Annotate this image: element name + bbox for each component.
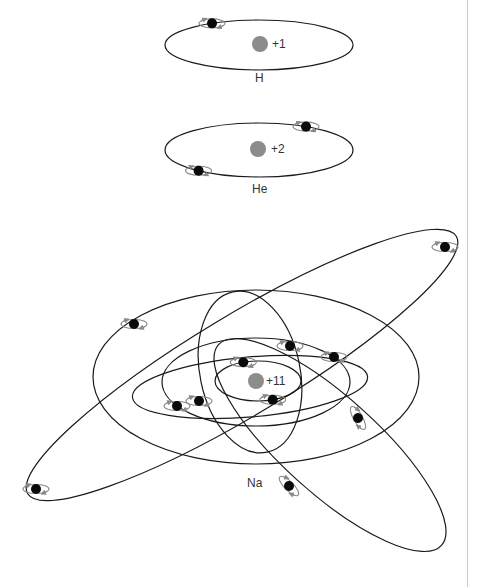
nucleus [252,36,268,52]
nucleus-charge: +2 [271,142,285,156]
electron-dot [329,352,339,362]
atom-sodium: +11 Na [2,193,482,581]
electron-dot [129,319,139,329]
electron [230,357,256,367]
orbit-long-diagonal-b [186,309,473,581]
electron [23,484,49,494]
electron-dot [440,242,450,252]
atom-diagrams: +1 H +2 He +11 Na [0,0,483,587]
atom-label: Na [247,476,263,490]
nucleus-charge: +1 [272,37,286,51]
electron-dot [194,396,204,406]
electron-dot [172,401,182,411]
electron-dot [31,484,41,494]
electron [164,401,190,411]
nucleus-charge: +11 [266,374,286,388]
electron [432,242,458,252]
atom-helium: +2 He [165,122,353,196]
electron [276,473,301,498]
electron-dot [268,395,278,405]
nucleus [250,141,266,157]
electron-dot [351,411,365,425]
atom-label: He [252,182,268,196]
electron-dot [301,122,311,132]
electron [321,352,347,362]
electron-dot [207,18,217,28]
electron [277,341,303,351]
electron-dot [285,341,295,351]
electron [347,404,369,432]
electron-dot [238,357,248,367]
electron [199,18,225,28]
electron [293,122,319,132]
atom-label: H [255,71,264,85]
electron-dot [194,166,204,176]
spin-arrow-icon [358,425,362,429]
spin-arrow-icon [355,406,359,410]
electron [186,166,212,176]
atom-hydrogen: +1 H [165,18,353,85]
electron-dot [282,479,296,493]
electron [121,319,147,329]
nucleus [248,373,264,389]
